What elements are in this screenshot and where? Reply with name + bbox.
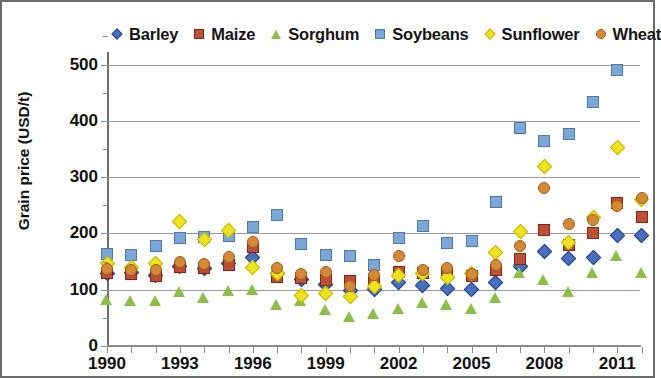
gridline (107, 233, 640, 234)
circle-marker-icon (563, 218, 575, 230)
triangle-marker-icon (343, 311, 355, 322)
legend-item-barley: Barley (110, 25, 178, 44)
diamond-marker-icon (512, 224, 528, 240)
square-marker-icon (247, 221, 259, 233)
triangle-marker-icon (246, 284, 258, 295)
triangle-marker-icon (149, 295, 161, 306)
circle-marker-icon (514, 240, 526, 252)
legend-marker-soybeans (373, 27, 387, 41)
circle-marker-icon (344, 280, 356, 292)
circle-marker-icon (320, 266, 332, 278)
square-marker-icon (514, 122, 526, 134)
legend-label: Sunflower (502, 25, 580, 44)
x-axis-tick (520, 347, 521, 353)
square-marker-icon (636, 211, 648, 223)
square-marker-icon (295, 238, 307, 250)
square-marker-icon (375, 29, 385, 39)
x-axis-tick-label: 1993 (161, 354, 199, 374)
triangle-marker-icon (465, 303, 477, 314)
circle-marker-icon (247, 236, 259, 248)
square-marker-icon (393, 232, 405, 244)
circle-marker-icon (393, 250, 405, 262)
circle-marker-icon (538, 182, 550, 194)
triangle-marker-icon (392, 303, 404, 314)
square-marker-icon (150, 240, 162, 252)
triangle-marker-icon (562, 286, 574, 297)
x-axis-tick (399, 347, 400, 353)
diamond-marker-icon (464, 282, 480, 298)
x-axis-tick (156, 347, 157, 353)
circle-marker-icon (417, 264, 429, 276)
triangle-marker-icon (416, 297, 428, 308)
plot-area (107, 54, 640, 345)
gridline (107, 177, 640, 178)
x-axis-tick (642, 347, 643, 353)
diamond-marker-icon (537, 159, 553, 175)
chart-legend: BarleyMaizeSorghumSoybeansSunflowerWheat (110, 22, 640, 46)
square-marker-icon (611, 64, 623, 76)
x-axis-tick (326, 347, 327, 353)
triangle-marker-icon (440, 299, 452, 310)
triangle-marker-icon (586, 267, 598, 278)
square-marker-icon (514, 253, 526, 265)
x-axis-tick (569, 347, 570, 353)
legend-marker-wheat (594, 27, 608, 41)
y-axis-minor-tick (103, 36, 108, 37)
x-axis-tick (277, 347, 278, 353)
diamond-marker-icon (488, 275, 504, 291)
gridline (107, 121, 640, 122)
y-axis-tick (101, 290, 108, 291)
triangle-marker-icon (367, 308, 379, 319)
circle-marker-icon (587, 214, 599, 226)
square-marker-icon (563, 128, 575, 140)
diamond-marker-icon (318, 286, 334, 302)
x-axis-tick-label: 2008 (525, 354, 563, 374)
square-marker-icon (466, 235, 478, 247)
y-axis-minor-tick (103, 149, 108, 150)
legend-label: Sorghum (288, 25, 359, 44)
y-axis-tick-label: 400 (2, 111, 98, 131)
diamond-marker-icon (634, 228, 650, 244)
square-marker-icon (174, 232, 186, 244)
square-marker-icon (344, 250, 356, 262)
x-axis-tick (423, 347, 424, 353)
diamond-marker-icon (561, 251, 577, 267)
y-axis-minor-tick (103, 205, 108, 206)
x-axis-tick-label: 1999 (307, 354, 345, 374)
x-axis-tick-label: 1990 (88, 354, 126, 374)
x-axis-tick (253, 347, 254, 353)
circle-marker-icon (174, 256, 186, 268)
triangle-marker-icon (537, 274, 549, 285)
triangle-marker-icon (513, 267, 525, 278)
x-axis-tick (472, 347, 473, 353)
y-axis-tick-label: 0 (2, 336, 98, 356)
x-axis-tick (180, 347, 181, 353)
triangle-marker-icon (100, 294, 112, 305)
square-marker-icon (538, 135, 550, 147)
x-axis-tick (617, 347, 618, 353)
diamond-marker-icon (111, 28, 122, 39)
legend-marker-sunflower (483, 27, 497, 41)
circle-marker-icon (150, 264, 162, 276)
legend-label: Barley (129, 25, 178, 44)
diamond-marker-icon (488, 245, 504, 261)
legend-marker-sorghum (269, 27, 283, 41)
x-axis-tick-label: 1996 (234, 354, 272, 374)
legend-item-maize: Maize (192, 25, 255, 44)
square-marker-icon (587, 227, 599, 239)
x-axis-tick (350, 347, 351, 353)
circle-marker-icon (611, 200, 623, 212)
diamond-marker-icon (610, 139, 626, 155)
legend-label: Maize (211, 25, 255, 44)
x-axis-tick (204, 347, 205, 353)
legend-marker-maize (192, 27, 206, 41)
triangle-marker-icon (271, 30, 281, 39)
y-axis-tick (101, 177, 108, 178)
x-axis-tick (544, 347, 545, 353)
square-marker-icon (441, 237, 453, 249)
square-marker-icon (538, 224, 550, 236)
square-marker-icon (587, 96, 599, 108)
circle-marker-icon (466, 268, 478, 280)
square-marker-icon (320, 249, 332, 261)
